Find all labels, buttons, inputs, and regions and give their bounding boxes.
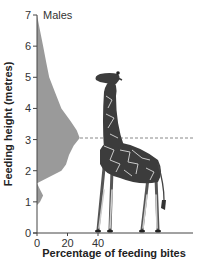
y-tick-label: 6 xyxy=(25,40,31,52)
y-axis-title: Feeding height (metres) xyxy=(2,61,14,186)
series-label-males: Males xyxy=(43,9,73,21)
x-tick-label: 0 xyxy=(34,237,40,249)
x-axis-title: Percentage of feeding bites xyxy=(42,247,186,259)
y-tick-label: 0 xyxy=(25,227,31,239)
feeding-height-distribution-area xyxy=(37,15,80,205)
y-tick-label: 3 xyxy=(25,134,31,146)
chart: 01234567 02040 Males Percentage of feedi… xyxy=(0,0,205,267)
y-tick-label: 4 xyxy=(25,102,31,114)
y-axis-ticks: 01234567 xyxy=(25,9,37,239)
y-tick-label: 1 xyxy=(25,196,31,208)
y-tick-label: 2 xyxy=(25,165,31,177)
y-tick-label: 7 xyxy=(25,9,31,21)
y-tick-label: 5 xyxy=(25,71,31,83)
giraffe-illustration xyxy=(95,71,166,232)
